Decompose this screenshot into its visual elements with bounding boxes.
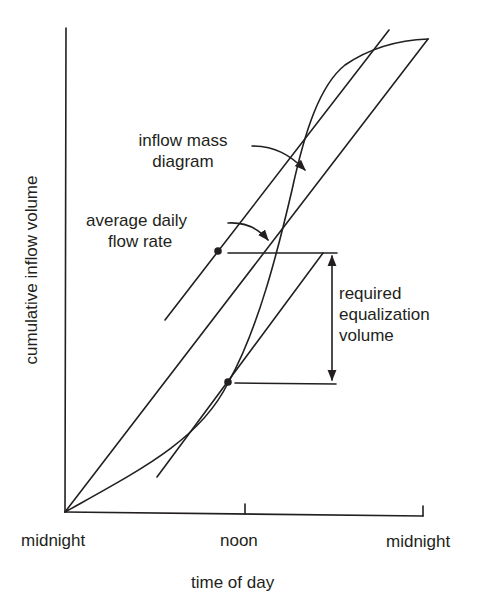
inflow-mass-label: inflow mass diagram [118,130,248,172]
average-flow-label-line1: average daily [86,210,226,231]
inflow-mass-label-line1: inflow mass [118,130,248,151]
upper-tangent-line [165,30,389,320]
required-volume-label-line2: equalization [339,304,430,325]
lower-reference-line [235,383,336,384]
average-flow-label: average daily flow rate [86,210,226,252]
x-tick-label-midnight-start: midnight [21,530,85,551]
y-axis-label: cumulative inflow volume [22,176,42,365]
average-flow-line [65,39,428,512]
average-flow-label-line2: flow rate [86,231,226,252]
inflow-mass-label-line2: diagram [118,151,248,172]
y-axis [65,28,66,512]
x-tick-label-noon: noon [220,530,258,551]
x-tick-label-midnight-end: midnight [386,531,450,552]
required-volume-label-line3: volume [339,325,430,346]
required-volume-label-line1: required [339,283,430,304]
required-volume-label: required equalization volume [339,283,430,346]
lower-tangent-line [157,253,323,477]
lower-tangent-point [224,378,232,386]
x-axis-label: time of day [191,572,274,593]
x-axis [65,512,423,516]
